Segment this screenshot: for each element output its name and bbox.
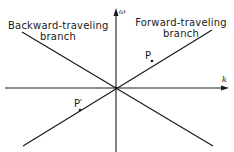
dispersion-diagram: ω k Backward-traveling branch Forward-tr… <box>0 0 234 152</box>
backward-branch-label-line1: Backward-traveling <box>8 20 108 31</box>
forward-branch-label-line1: Forward-traveling <box>131 17 231 28</box>
point-p-prime-marker <box>79 109 82 112</box>
backward-branch-label-line2: branch <box>8 31 108 42</box>
omega-axis <box>114 8 119 152</box>
forward-branch-label: Forward-traveling branch <box>131 17 231 39</box>
forward-branch-label-line2: branch <box>131 28 231 39</box>
k-axis-arrow-icon <box>221 86 229 91</box>
origin-marker <box>115 87 117 89</box>
point-p-marker <box>151 60 154 63</box>
backward-branch-label: Backward-traveling branch <box>8 20 108 42</box>
point-p-label: P <box>145 51 151 61</box>
omega-axis-label: ω <box>119 8 126 16</box>
point-p-prime-label: P′ <box>74 99 82 109</box>
k-axis-label: k <box>222 76 227 84</box>
omega-axis-arrow-icon <box>114 8 119 16</box>
